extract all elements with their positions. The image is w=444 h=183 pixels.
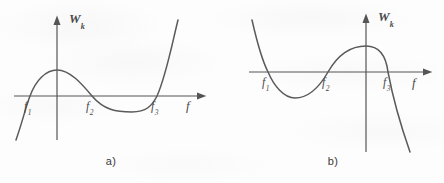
- panel-a-root-f3-subscript: 3: [155, 108, 159, 117]
- panel-b-root-f1-symbol: f: [262, 75, 265, 89]
- panel-b-root-f1-subscript: 1: [266, 84, 270, 93]
- panel-a-root-f2-symbol: f: [86, 99, 89, 113]
- panel-a-y-axis-symbol: W: [69, 11, 81, 26]
- figure-root: Wk f f1 f2 f3 a): [0, 0, 444, 183]
- panel-b-root-f2-symbol: f: [322, 75, 325, 89]
- panel-b: Wk f f1 f2 f3 b): [222, 0, 444, 183]
- panel-b-x-axis-label: f: [412, 76, 416, 89]
- panel-a-root-f1-subscript: 1: [28, 108, 32, 117]
- panel-a-x-axis-symbol: f: [186, 98, 190, 113]
- panel-b-y-axis-symbol: W: [378, 9, 390, 24]
- panel-b-root-f3-subscript: 3: [387, 84, 391, 93]
- panel-a: Wk f f1 f2 f3 a): [0, 0, 222, 183]
- panel-a-root-label-f1: f1: [24, 100, 31, 115]
- panel-a-root-label-f3: f3: [151, 100, 158, 115]
- panel-a-x-axis-label: f: [186, 99, 190, 112]
- panel-b-y-axis-subscript: k: [390, 20, 394, 29]
- panel-a-y-axis-subscript: k: [81, 22, 85, 31]
- panel-a-y-axis-label: Wk: [69, 12, 85, 29]
- panel-b-root-label-f3: f3: [383, 76, 390, 91]
- panel-a-root-f2-subscript: 2: [90, 108, 94, 117]
- panel-a-curve: [16, 20, 178, 140]
- panel-b-x-axis-symbol: f: [412, 75, 416, 90]
- panel-a-caption: a): [0, 155, 222, 167]
- panel-b-y-axis-label: Wk: [378, 10, 394, 27]
- panel-a-root-f1-symbol: f: [24, 99, 27, 113]
- panel-a-root-f3-symbol: f: [151, 99, 154, 113]
- panel-b-caption: b): [222, 155, 444, 167]
- panel-b-root-f3-symbol: f: [383, 75, 386, 89]
- panel-b-root-label-f2: f2: [322, 76, 329, 91]
- panel-b-root-label-f1: f1: [262, 76, 269, 91]
- panel-a-root-label-f2: f2: [86, 100, 93, 115]
- panel-b-root-f2-subscript: 2: [326, 84, 330, 93]
